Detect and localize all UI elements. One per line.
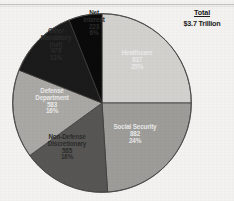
slice-label-healthcare-percent: 25% <box>108 64 166 71</box>
slice-label-healthcare: Healthcare 937 25% <box>108 50 166 70</box>
slice-label-non-defense-percent: 16% <box>36 154 98 161</box>
slice-label-social-security: Social Security 882 24% <box>104 124 166 144</box>
page-top-rule <box>0 4 234 5</box>
total-value: $3.7 Trillion <box>172 19 232 28</box>
slice-label-other-mandatory-percent: 13% <box>26 55 86 62</box>
total-summary: Total $3.7 Trillion <box>172 8 232 28</box>
slice-label-defense-percent: 16% <box>20 108 84 115</box>
slice-label-social-security-percent: 24% <box>104 138 166 145</box>
slice-label-net-interest-percent: 6% <box>70 30 118 37</box>
slice-label-non-defense-discretionary: Non-Defense Discretionary 585 16% <box>36 134 98 161</box>
chart-page: Healthcare 937 25% Social Security 882 2… <box>0 0 234 201</box>
slice-label-net-interest: Net Interest 223 6% <box>70 10 118 37</box>
total-label: Total <box>172 8 232 17</box>
pie-slice-social-security <box>102 103 191 192</box>
page-top-rule-secondary <box>0 6 234 7</box>
slice-label-defense-department: Defense Department 583 16% <box>20 88 84 115</box>
